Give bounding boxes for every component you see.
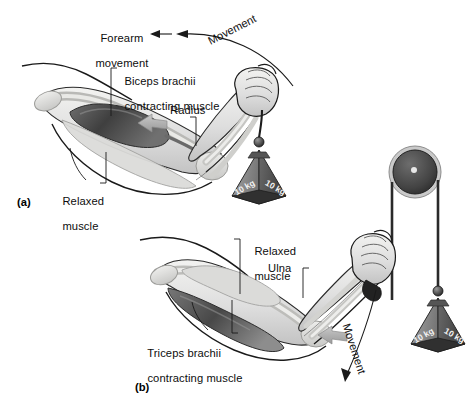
weight-upper: 10 kg 10 kg <box>232 150 287 204</box>
weight-lower: 10 kg 10 kg <box>411 286 466 352</box>
pulley-assembly <box>389 146 441 300</box>
movement-arrowhead-a <box>176 30 188 38</box>
label-biceps-brachii-line1: Biceps brachii <box>124 75 195 87</box>
label-triceps-brachii: Triceps brachii contracting muscle <box>141 334 243 384</box>
label-forearm-movement-line1: Forearm <box>100 32 143 44</box>
label-relaxed-muscle-b: Relaxed muscle <box>248 232 296 282</box>
figure-muscle-antagonism: 10 kg 10 kg <box>0 0 476 414</box>
label-radius: Radius <box>170 104 205 117</box>
panel-a-arm: 10 kg 10 kg <box>22 30 293 204</box>
label-relaxed-muscle-a-line2: muscle <box>62 220 98 232</box>
hand-fist-a <box>235 64 279 116</box>
movement-arrowhead-b <box>341 368 351 382</box>
label-triceps-brachii-line2: contracting muscle <box>147 372 242 384</box>
panel-label-a: (a) <box>17 196 31 208</box>
hand-fist-b <box>351 230 395 284</box>
label-relaxed-muscle-b-line1: Relaxed <box>254 245 296 257</box>
panel-label-b: (b) <box>135 381 149 393</box>
label-triceps-brachii-line1: Triceps brachii <box>147 347 221 359</box>
label-ulna: Ulna <box>268 262 291 275</box>
label-relaxed-muscle-a: Relaxed muscle <box>56 182 104 232</box>
cord-ball-b <box>433 286 443 296</box>
label-relaxed-muscle-a-line1: Relaxed <box>62 195 104 207</box>
pulley-hub <box>411 167 417 173</box>
cord-ball-a <box>254 137 264 147</box>
forearm-movement-arrowhead <box>150 30 160 38</box>
